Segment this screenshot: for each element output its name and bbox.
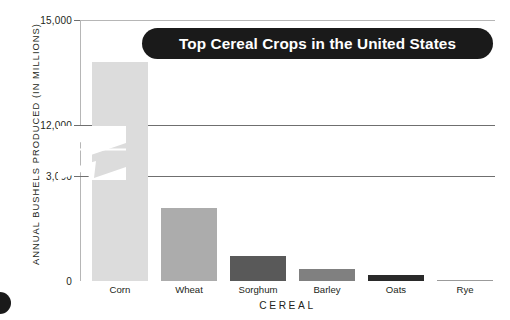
bar-barley[interactable] xyxy=(299,269,355,281)
bar-slot-sorghum xyxy=(230,20,286,281)
x-tick-label-rye: Rye xyxy=(437,284,493,295)
bar-slot-wheat xyxy=(161,20,217,281)
x-tick-label-barley: Barley xyxy=(299,284,355,295)
x-tick-label-sorghum: Sorghum xyxy=(230,284,286,295)
bar-slot-corn xyxy=(92,20,148,281)
x-tick-label-oats: Oats xyxy=(368,284,424,295)
bars-layer xyxy=(80,20,495,281)
bar-sorghum[interactable] xyxy=(230,256,286,281)
y-tick-label-12000: 12,000 xyxy=(8,120,72,131)
chart-title-banner: Top Cereal Crops in the United States xyxy=(142,28,493,59)
bar-slot-rye xyxy=(437,20,493,281)
y-tick-label-3000: 3,000 xyxy=(8,171,72,182)
bar-oats[interactable] xyxy=(368,275,424,281)
bar-rye[interactable] xyxy=(437,280,493,281)
x-tick-label-corn: Corn xyxy=(92,284,148,295)
x-tick-label-wheat: Wheat xyxy=(161,284,217,295)
chart-title-text: Top Cereal Crops in the United States xyxy=(179,35,456,53)
bar-wheat[interactable] xyxy=(161,208,217,281)
bar-chart-figure: ANNUAL BUSHELS PRODUCED (IN MILLIONS) 15… xyxy=(0,0,510,320)
bar-slot-barley xyxy=(299,20,355,281)
y-tick-label-0: 0 xyxy=(8,276,72,287)
x-axis-title: CEREAL xyxy=(80,300,495,311)
bar-corn[interactable] xyxy=(92,62,148,281)
decorative-corner-dot xyxy=(0,292,11,314)
bar-slot-oats xyxy=(368,20,424,281)
y-axis-title: ANNUAL BUSHELS PRODUCED (IN MILLIONS) xyxy=(31,9,41,279)
y-tick-label-15000: 15,000 xyxy=(8,15,72,26)
